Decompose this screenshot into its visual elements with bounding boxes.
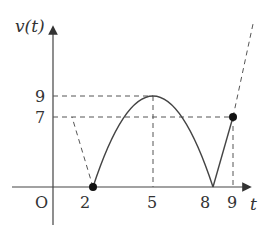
x-tick-8: 8 [200,193,210,212]
x-tick-5: 5 [147,193,157,212]
y-axis-label: v(t) [15,16,45,36]
velocity-graph: v(t) t O 2 5 8 9 9 7 [0,0,268,236]
x-axis-label: t [250,194,257,214]
point-2-0 [89,183,97,191]
dashed-extension-left [72,117,93,187]
x-tick-2: 2 [80,193,90,212]
y-tick-7: 7 [35,108,45,127]
x-tick-9: 9 [227,193,237,212]
guide-lines [53,24,253,187]
dashed-extension-right [233,24,253,117]
origin-label: O [35,193,48,212]
linear-segment [213,117,233,187]
y-tick-9: 9 [35,87,45,106]
point-9-7 [229,113,237,121]
